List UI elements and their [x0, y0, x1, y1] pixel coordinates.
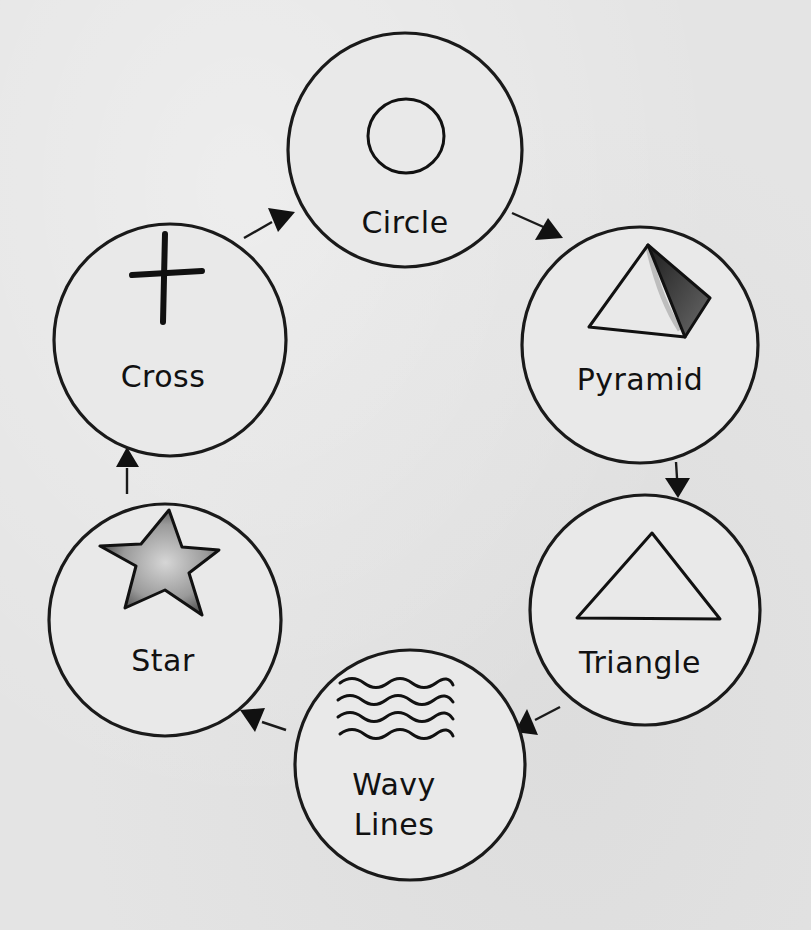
- arrowhead-icon: [240, 708, 265, 732]
- edge-circle-to-pyramid: [512, 213, 563, 240]
- node-cross: Cross: [54, 224, 286, 456]
- edge-pyramid-to-triangle: [665, 462, 690, 498]
- node-label: Lines: [354, 807, 435, 842]
- arrowhead-icon: [268, 208, 295, 232]
- arrowhead-icon: [535, 218, 563, 240]
- node-label: Star: [131, 643, 195, 678]
- arrowhead-icon: [665, 478, 690, 498]
- edge-cross-to-circle: [244, 208, 295, 238]
- node-label: Triangle: [578, 645, 701, 680]
- cycle-diagram: Circle Pyramid Triangle Wavy Lines: [0, 0, 811, 930]
- node-label: Pyramid: [577, 362, 704, 397]
- edge-triangle-to-wavy: [515, 707, 560, 735]
- node-label: Wavy: [352, 767, 436, 802]
- node-star: Star: [49, 504, 281, 736]
- edge-star-to-cross: [116, 447, 139, 494]
- node-circle: Circle: [288, 33, 522, 267]
- node-label: Circle: [361, 205, 448, 240]
- node-wavy-lines: Wavy Lines: [295, 650, 525, 880]
- node-triangle: Triangle: [530, 495, 760, 725]
- node-label: Cross: [121, 359, 206, 394]
- edge-wavy-to-star: [240, 708, 286, 732]
- node-pyramid: Pyramid: [522, 227, 758, 463]
